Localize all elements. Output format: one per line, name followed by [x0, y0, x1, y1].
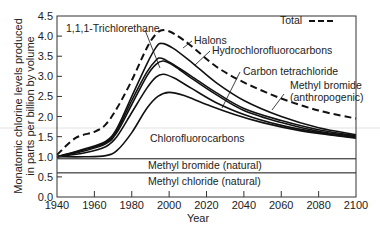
x-tick-label: 2100	[344, 199, 368, 211]
label-hcfc: Hydrochlorofluorocarbons	[212, 44, 332, 56]
x-tick-label: 2020	[194, 199, 218, 211]
chart: 1940196019802000202020402060208021000.00…	[0, 0, 380, 235]
x-axis-label: Year	[187, 212, 210, 224]
y-tick-label: 4.5	[38, 10, 53, 22]
y-axis-label-line2: in parts per billion by volume	[24, 36, 36, 175]
y-tick-label: 0.5	[38, 171, 53, 183]
legend-total-label: Total	[280, 14, 302, 26]
label-carbon-tet: Carbon tetrachloride	[243, 65, 338, 77]
label-cfc: Chlorofluorocarbons	[150, 132, 245, 144]
y-tick-label: 3.5	[38, 50, 53, 62]
x-tick-label: 2060	[269, 199, 293, 211]
x-tick-label: 1980	[120, 199, 144, 211]
y-tick-label: 3.0	[38, 70, 53, 82]
label-methyl-chloride-natural: Methyl chloride (natural)	[148, 175, 261, 187]
y-tick-label: 2.5	[38, 90, 53, 102]
y-tick-label: 1.5	[38, 131, 53, 143]
x-tick-label: 2000	[157, 199, 181, 211]
y-tick-label: 1.0	[38, 151, 53, 163]
x-tick-label: 2080	[306, 199, 330, 211]
y-tick-label: 4.0	[38, 30, 53, 42]
y-axis-label-line1: Monatomic chlorine levels produced	[12, 18, 24, 193]
label-methyl-bromide-anthro: Methyl bromide	[290, 79, 362, 91]
label-methyl-bromide-anthro-2: (anthropogenic)	[290, 91, 364, 103]
x-tick-label: 1960	[82, 199, 106, 211]
y-tick-label: 2.0	[38, 111, 53, 123]
y-tick-label: 0.0	[38, 191, 53, 203]
x-tick-label: 2040	[232, 199, 256, 211]
leader-hcfc	[195, 51, 210, 65]
label-methyl-bromide-natural: Methyl bromide (natural)	[148, 159, 262, 171]
